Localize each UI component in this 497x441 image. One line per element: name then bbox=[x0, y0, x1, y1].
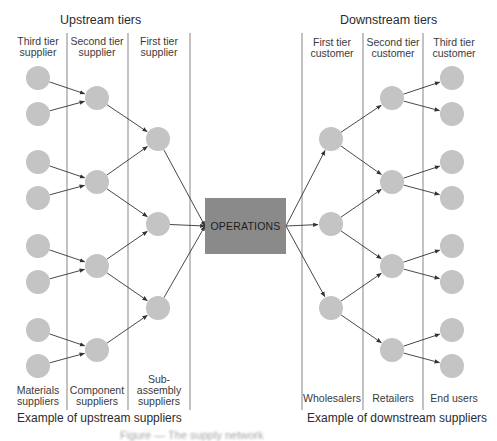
flow-arrow bbox=[403, 334, 439, 346]
network-node-d2 bbox=[380, 170, 404, 194]
network-node-d2 bbox=[380, 254, 404, 278]
example-line: suppliers bbox=[129, 396, 189, 407]
tier-label-line: customer bbox=[302, 48, 362, 59]
network-node-u3 bbox=[26, 270, 50, 294]
network-node-u3 bbox=[26, 186, 50, 210]
flow-arrow bbox=[107, 105, 147, 132]
network-node-u3 bbox=[26, 234, 50, 258]
flow-arrow bbox=[107, 146, 148, 175]
flow-arrow bbox=[341, 105, 381, 132]
network-node-u2 bbox=[85, 170, 109, 194]
network-node-d1 bbox=[319, 296, 343, 320]
example-materials-suppliers: Materials suppliers bbox=[8, 374, 68, 407]
flow-arrow bbox=[341, 231, 381, 259]
network-node-d1 bbox=[319, 212, 343, 236]
flow-arrow bbox=[403, 166, 439, 178]
example-subassembly-suppliers: Sub- assembly suppliers bbox=[129, 374, 189, 407]
network-node-d3 bbox=[440, 186, 464, 210]
network-node-u1 bbox=[146, 296, 170, 320]
flow-arrow bbox=[341, 315, 381, 343]
network-node-u2 bbox=[85, 338, 109, 362]
flow-arrow bbox=[170, 225, 205, 226]
network-node-u2 bbox=[85, 254, 109, 278]
network-node-d3 bbox=[440, 150, 464, 174]
example-line: suppliers bbox=[67, 396, 127, 407]
flow-arrow bbox=[164, 150, 205, 226]
flow-arrow bbox=[404, 353, 440, 363]
flow-arrow bbox=[404, 185, 440, 195]
tier-label-second-supplier: Second tier supplier bbox=[67, 36, 127, 58]
operations-label: OPERATIONS bbox=[205, 198, 286, 254]
network-node-u1 bbox=[146, 127, 170, 151]
network-node-u3 bbox=[26, 318, 50, 342]
example-end-users: End users bbox=[424, 393, 484, 404]
example-component-suppliers: Component suppliers bbox=[67, 374, 127, 407]
network-node-u3 bbox=[26, 66, 50, 90]
tier-label-third-supplier: Third tier supplier bbox=[8, 36, 68, 58]
example-retailers: Retailers bbox=[363, 393, 423, 404]
flow-arrow bbox=[107, 231, 147, 259]
network-node-d3 bbox=[440, 318, 464, 342]
network-node-u3 bbox=[26, 102, 50, 126]
network-node-d2 bbox=[380, 338, 404, 362]
flow-arrow bbox=[404, 269, 440, 279]
flow-arrow bbox=[107, 189, 147, 217]
upstream-example-title: Example of upstream suppliers bbox=[17, 413, 182, 424]
flow-arrow bbox=[341, 273, 381, 301]
downstream-title: Downstream tiers bbox=[340, 15, 437, 26]
upstream-title: Upstream tiers bbox=[60, 15, 141, 26]
example-line: suppliers bbox=[8, 396, 68, 407]
network-node-u1 bbox=[146, 212, 170, 236]
tier-label-line: customer bbox=[363, 48, 423, 59]
example-wholesalers: Wholesalers bbox=[302, 393, 362, 404]
network-node-d3 bbox=[440, 270, 464, 294]
network-node-d3 bbox=[440, 66, 464, 90]
network-node-d3 bbox=[440, 354, 464, 378]
flow-arrow bbox=[164, 226, 205, 298]
network-node-u2 bbox=[85, 86, 109, 110]
tier-label-line: supplier bbox=[8, 47, 68, 58]
flow-arrow bbox=[107, 315, 147, 343]
flow-arrow bbox=[404, 101, 440, 111]
network-node-d3 bbox=[440, 234, 464, 258]
flow-arrow bbox=[403, 82, 439, 94]
tier-label-first-customer: First tier customer bbox=[302, 37, 362, 59]
flow-arrow bbox=[286, 226, 325, 297]
flow-arrow bbox=[286, 151, 325, 226]
tier-label-line: customer bbox=[424, 48, 484, 59]
network-node-d1 bbox=[319, 127, 343, 151]
tier-label-third-customer: Third tier customer bbox=[424, 37, 484, 59]
tier-label-second-customer: Second tier customer bbox=[363, 37, 423, 59]
network-node-d2 bbox=[380, 86, 404, 110]
tier-label-line: supplier bbox=[129, 47, 189, 58]
network-node-d3 bbox=[440, 102, 464, 126]
flow-arrow bbox=[341, 189, 381, 217]
network-node-u3 bbox=[26, 150, 50, 174]
downstream-example-title: Example of downstream suppliers bbox=[307, 413, 487, 424]
flow-arrow bbox=[341, 146, 382, 175]
flow-arrow bbox=[107, 273, 147, 301]
flow-arrow bbox=[403, 250, 439, 262]
tier-label-line: supplier bbox=[67, 47, 127, 58]
figure-caption: Figure — The supply network bbox=[120, 430, 263, 441]
tier-label-first-supplier: First tier supplier bbox=[129, 36, 189, 58]
